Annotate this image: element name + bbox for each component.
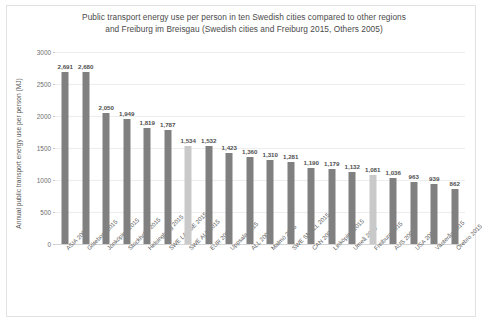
bar-value-label: 963 [409,173,419,180]
bar-group: 2,680Göteborg 2015 [76,52,97,244]
chart-title-line-2: and Freiburg im Breisgau (Swedish cities… [42,24,446,36]
bar[interactable] [390,178,397,244]
x-tick-label: SWE ALL 2015 [188,247,192,251]
x-tick-label: EUR 2005 [209,247,213,251]
x-tick-label: Freiburg 2015 [373,247,377,251]
bar-chart: Public transport energy use per person i… [0,0,482,323]
bar[interactable] [62,72,69,244]
bar-group: 1,532EUR 2005 [199,52,220,244]
bar-group: 1,787SWE LARGE 2015 [158,52,179,244]
x-tick-label: Stockholm 2015 [127,247,131,251]
x-tick-label: Umeå 2015 [352,247,356,251]
x-tick-label: Västerås 2015 [434,247,438,251]
y-tick-label-0: 0 [47,241,51,248]
y-tick-label-500: 500 [40,209,51,216]
bar-value-label: 2,680 [78,63,93,70]
bar-group: 1,132Umeå 2015 [342,52,363,244]
bar-group: 1,190CAN 2005 [301,52,322,244]
bar-group: 1,281SWE SMALL 2015 [281,52,302,244]
bar-group: 963USA 2005 [404,52,425,244]
bar-group: 1,819Helsingborg 2015 [137,52,158,244]
bar-value-label: 1,534 [181,137,196,144]
y-tick-label-1500: 1500 [37,145,51,152]
bar[interactable] [246,157,253,244]
bar-value-label: 1,190 [304,159,319,166]
bar[interactable] [410,182,417,244]
bar[interactable] [103,113,110,244]
bar-group: 1,949Stockholm 2015 [117,52,138,244]
y-tick-label-2000: 2000 [37,113,51,120]
bar[interactable] [123,119,130,244]
bar-value-label: 1,787 [160,121,175,128]
bar[interactable] [164,130,171,244]
bar[interactable] [431,184,438,244]
bar-group: 1,360ALL 2005 [240,52,261,244]
bar-value-label: 939 [429,175,439,182]
bar-value-label: 862 [450,180,460,187]
bar-value-label: 2,691 [58,63,73,70]
x-tick-label: Helsingborg 2015 [147,247,151,251]
x-tick-label: Malmö 2015 [270,247,274,251]
bar[interactable] [82,72,89,244]
bar-group: 1,534SWE ALL 2015 [178,52,199,244]
bar-value-label: 1,532 [201,137,216,144]
bar-group: 939Västerås 2015 [424,52,445,244]
bar[interactable] [144,128,151,244]
bar[interactable] [185,146,192,244]
bar-group: 1,423Uppsala 2015 [219,52,240,244]
bar-group: 1,179Linköping 2015 [322,52,343,244]
bar[interactable] [451,189,458,244]
bar-value-label: 1,819 [140,119,155,126]
bar-value-label: 1,179 [324,160,339,167]
bar[interactable] [308,168,315,244]
x-tick-label: USA 2005 [414,247,418,251]
bar-group: 862Örebro 2015 [445,52,466,244]
bar-group: 1,036AUS 2006 [383,52,404,244]
bar-value-label: 1,081 [365,166,380,173]
x-tick-label: SWE LARGE 2015 [168,247,172,251]
bar-value-label: 1,423 [222,144,237,151]
x-tick-label: Göteborg 2015 [86,247,90,251]
bar[interactable] [328,169,335,244]
x-tick-label: ASIA 2005 [65,247,69,251]
bar[interactable] [205,146,212,244]
bar-value-label: 1,036 [386,169,401,176]
x-tick-label: ALL 2005 [250,247,254,251]
x-tick-label: Jönköping 2015 [106,247,110,251]
bar-group: 2,691ASIA 2005 [55,52,76,244]
x-tick-label: SWE SMALL 2015 [291,247,295,251]
x-tick-label: Örebro 2015 [455,247,459,251]
chart-title-line-1: Public transport energy use per person i… [42,12,446,24]
bar-group: 1,081Freiburg 2015 [363,52,384,244]
bar-group: 1,310Malmö 2015 [260,52,281,244]
plot-area: 050010001500200025003000 2,691ASIA 20052… [55,52,465,244]
y-tick-mark-0 [53,244,55,245]
bar-value-label: 1,132 [345,163,360,170]
bar[interactable] [287,162,294,244]
bar-value-label: 1,949 [119,110,134,117]
bar[interactable] [369,175,376,244]
bar-value-label: 1,281 [283,153,298,160]
x-tick-label: AUS 2006 [393,247,397,251]
bar-value-label: 2,050 [99,104,114,111]
chart-title: Public transport energy use per person i… [42,12,446,35]
bar-value-label: 1,310 [263,151,278,158]
x-tick-label: Linköping 2015 [332,247,336,251]
y-tick-label-1000: 1000 [37,177,51,184]
bars-layer: 2,691ASIA 20052,680Göteborg 20152,050Jön… [55,52,465,244]
bar-value-label: 1,360 [242,148,257,155]
bar[interactable] [267,160,274,244]
y-tick-label-3000: 3000 [37,49,51,56]
bar[interactable] [226,153,233,244]
bar[interactable] [349,172,356,244]
y-tick-label-2500: 2500 [37,81,51,88]
y-axis-title: Annual public transport energy use per p… [15,49,22,259]
x-tick-label: CAN 2005 [311,247,315,251]
x-tick-label: Uppsala 2015 [229,247,233,251]
bar-group: 2,050Jönköping 2015 [96,52,117,244]
